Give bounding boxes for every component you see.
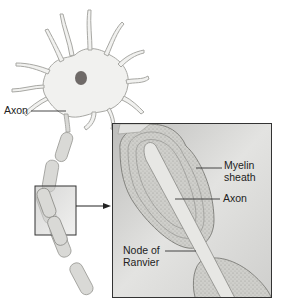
label-node-line2: Ranvier [123,257,159,268]
label-axon-inner: Axon [223,193,247,204]
label-axon-outer: Axon [4,105,28,116]
label-myelin-line1: Myelin [224,160,254,171]
cell-body [12,10,149,130]
arrow-head [103,203,111,209]
label-node-line1: Node of [123,245,160,256]
label-myelin-line2: sheath [224,172,256,183]
nucleus [75,71,87,85]
